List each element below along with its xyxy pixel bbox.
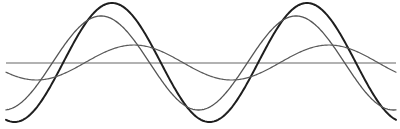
- wave-diagram: [0, 0, 400, 129]
- wave-diagram-svg: [0, 0, 400, 129]
